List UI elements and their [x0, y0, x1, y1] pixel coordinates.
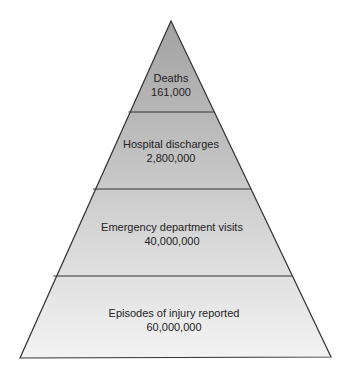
- tier-label: Emergency department visits: [101, 221, 243, 233]
- tier-label: Deaths: [154, 72, 189, 84]
- tier-label: Episodes of injury reported: [109, 307, 240, 319]
- injury-pyramid-diagram: Deaths 161,000 Hospital discharges 2,800…: [0, 0, 341, 374]
- tier-value: 2,800,000: [147, 152, 196, 164]
- tier-value: 60,000,000: [146, 321, 201, 333]
- tier-label: Hospital discharges: [123, 138, 219, 150]
- tier-value: 161,000: [151, 86, 191, 98]
- tier-value: 40,000,000: [144, 235, 199, 247]
